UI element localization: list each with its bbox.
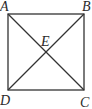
label-e: E — [40, 34, 50, 49]
label-c: C — [80, 95, 90, 109]
label-d: D — [0, 93, 10, 108]
square-diagram: A B E D C — [0, 0, 92, 109]
label-b: B — [82, 0, 91, 14]
label-a: A — [0, 0, 9, 14]
